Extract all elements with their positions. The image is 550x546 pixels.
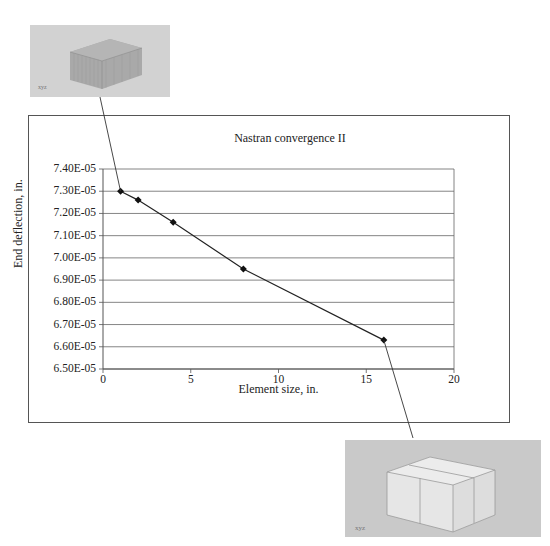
- x-axis-label: Element size, in.: [103, 382, 454, 397]
- data-point-marker: [240, 266, 247, 273]
- data-series: [117, 188, 387, 344]
- y-axis-label: End deflection, in.: [11, 179, 26, 268]
- y-tick-label: 6.90E-05: [44, 273, 96, 285]
- gridlines: [103, 169, 454, 369]
- coarse-mesh-model-image: xyz: [345, 440, 541, 537]
- y-tick-label: 7.00E-05: [44, 251, 96, 263]
- coarse-mesh-block-icon: xyz: [345, 440, 541, 537]
- data-point-marker: [170, 219, 177, 226]
- svg-text:xyz: xyz: [355, 524, 365, 532]
- data-point-marker: [135, 197, 142, 204]
- axes: [99, 169, 454, 373]
- y-tick-label: 6.80E-05: [44, 295, 96, 307]
- y-tick-label: 7.30E-05: [44, 184, 96, 196]
- y-tick-label: 6.60E-05: [44, 340, 96, 352]
- y-tick-label: 7.40E-05: [44, 162, 96, 174]
- y-tick-label: 6.70E-05: [44, 318, 96, 330]
- y-tick-label: 7.20E-05: [44, 206, 96, 218]
- y-tick-label: 7.10E-05: [44, 229, 96, 241]
